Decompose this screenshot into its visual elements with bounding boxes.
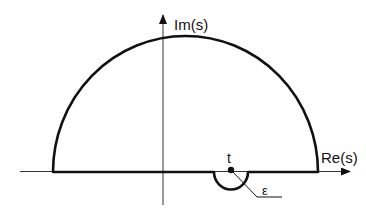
contour-path — [53, 36, 318, 190]
contour-diagram: Im(s) Re(s) t ε — [0, 0, 366, 216]
imaginary-axis-label: Im(s) — [174, 16, 208, 33]
real-axis-label: Re(s) — [321, 149, 358, 166]
epsilon-leader-line — [231, 170, 282, 197]
epsilon-label: ε — [262, 183, 268, 198]
point-label: t — [227, 150, 231, 166]
